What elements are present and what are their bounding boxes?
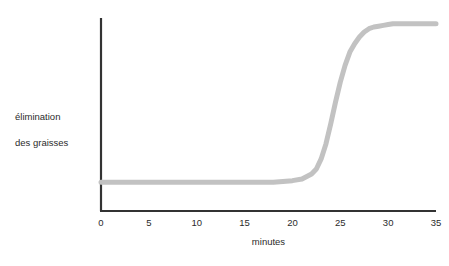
y-axis-title-line-1: élimination — [15, 110, 95, 123]
data-series-curve — [101, 24, 436, 183]
x-tick-label: 10 — [191, 217, 202, 228]
x-tick-label: 0 — [98, 217, 103, 228]
x-tick-label: 35 — [431, 217, 442, 228]
x-tick-label: 25 — [335, 217, 346, 228]
x-tick-label: 30 — [383, 217, 394, 228]
chart-figure: 05101520253035 minutes élimination des g… — [0, 0, 449, 266]
x-tick-label: 15 — [239, 217, 250, 228]
x-tick-label: 5 — [146, 217, 151, 228]
y-axis-title: élimination des graisses — [15, 97, 95, 162]
x-tick-label: 20 — [287, 217, 298, 228]
y-axis-title-line-2: des graisses — [15, 136, 95, 149]
x-tick-labels: 05101520253035 — [98, 217, 441, 228]
x-axis-title: minutes — [252, 236, 286, 247]
elimination-curve — [101, 24, 436, 183]
